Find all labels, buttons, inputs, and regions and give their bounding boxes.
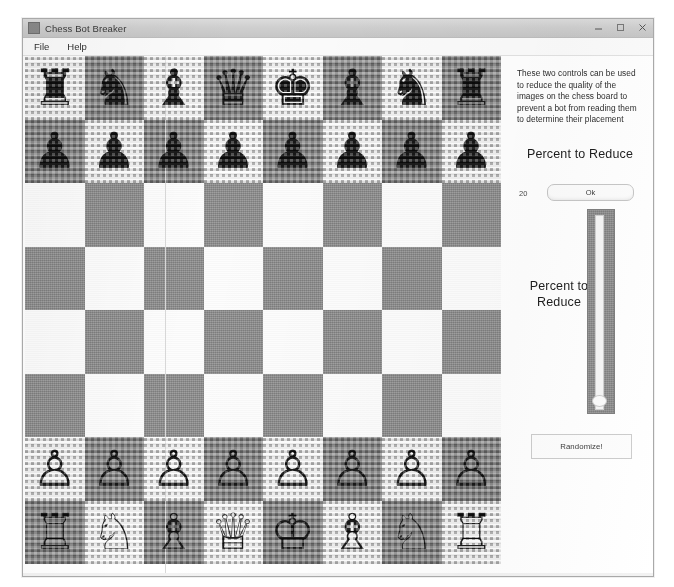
board-square[interactable] [85, 374, 145, 438]
piece-rook-black[interactable]: ♜ [25, 56, 85, 120]
board-square[interactable]: ♙ [323, 437, 383, 501]
piece-pawn-white[interactable]: ♙ [85, 437, 145, 501]
title-bar[interactable]: Chess Bot Breaker [23, 19, 653, 38]
board-square[interactable]: ♗ [323, 501, 383, 565]
board-square[interactable]: ♟ [442, 120, 502, 184]
board-square[interactable] [382, 310, 442, 374]
ok-button[interactable]: Ok [547, 184, 634, 201]
piece-rook-black[interactable]: ♜ [442, 56, 502, 120]
board-square[interactable] [263, 183, 323, 247]
board-square[interactable]: ♙ [442, 437, 502, 501]
piece-pawn-white[interactable]: ♙ [323, 437, 383, 501]
piece-king-white[interactable]: ♔ [263, 501, 323, 565]
board-square[interactable] [85, 247, 145, 311]
board-square[interactable]: ♙ [144, 437, 204, 501]
piece-knight-white[interactable]: ♘ [382, 501, 442, 565]
maximize-icon[interactable] [614, 21, 627, 34]
board-square[interactable] [323, 247, 383, 311]
piece-pawn-black[interactable]: ♟ [144, 120, 204, 184]
menu-file[interactable]: File [31, 40, 58, 53]
piece-pawn-white[interactable]: ♙ [382, 437, 442, 501]
piece-pawn-white[interactable]: ♙ [263, 437, 323, 501]
board-square[interactable] [25, 310, 85, 374]
board-square[interactable]: ♖ [442, 501, 502, 565]
board-square[interactable]: ♟ [144, 120, 204, 184]
board-square[interactable]: ♟ [25, 120, 85, 184]
board-square[interactable] [382, 183, 442, 247]
board-square[interactable]: ♙ [85, 437, 145, 501]
piece-pawn-black[interactable]: ♟ [323, 120, 383, 184]
board-square[interactable]: ♙ [263, 437, 323, 501]
piece-pawn-black[interactable]: ♟ [263, 120, 323, 184]
board-square[interactable]: ♙ [25, 437, 85, 501]
board-square[interactable] [25, 247, 85, 311]
board-square[interactable] [144, 310, 204, 374]
board-square[interactable] [204, 183, 264, 247]
board-square[interactable] [144, 183, 204, 247]
board-square[interactable]: ♔ [263, 501, 323, 565]
piece-bishop-black[interactable]: ♝ [144, 56, 204, 120]
board-square[interactable]: ♘ [85, 501, 145, 565]
minimize-icon[interactable] [592, 21, 605, 34]
board-square[interactable] [442, 183, 502, 247]
board-square[interactable]: ♕ [204, 501, 264, 565]
piece-bishop-white[interactable]: ♗ [323, 501, 383, 565]
board-square[interactable]: ♞ [382, 56, 442, 120]
board-square[interactable]: ♜ [442, 56, 502, 120]
board-square[interactable] [25, 374, 85, 438]
menu-help[interactable]: Help [64, 40, 96, 53]
piece-rook-white[interactable]: ♖ [442, 501, 502, 565]
board-square[interactable] [323, 374, 383, 438]
slider-thumb[interactable] [592, 395, 607, 407]
piece-king-black[interactable]: ♚ [263, 56, 323, 120]
board-square[interactable]: ♘ [382, 501, 442, 565]
board-square[interactable] [85, 183, 145, 247]
piece-pawn-white[interactable]: ♙ [204, 437, 264, 501]
piece-rook-white[interactable]: ♖ [25, 501, 85, 565]
board-square[interactable] [442, 310, 502, 374]
board-square[interactable]: ♛ [204, 56, 264, 120]
board-square[interactable]: ♟ [204, 120, 264, 184]
board-square[interactable] [85, 310, 145, 374]
board-square[interactable]: ♙ [382, 437, 442, 501]
piece-queen-white[interactable]: ♕ [204, 501, 264, 565]
piece-knight-black[interactable]: ♞ [382, 56, 442, 120]
board-square[interactable]: ♟ [323, 120, 383, 184]
piece-pawn-white[interactable]: ♙ [442, 437, 502, 501]
board-square[interactable]: ♟ [382, 120, 442, 184]
board-square[interactable] [204, 374, 264, 438]
piece-knight-white[interactable]: ♘ [85, 501, 145, 565]
board-square[interactable]: ♜ [25, 56, 85, 120]
close-icon[interactable] [636, 21, 649, 34]
board-square[interactable]: ♟ [263, 120, 323, 184]
piece-bishop-black[interactable]: ♝ [323, 56, 383, 120]
piece-pawn-white[interactable]: ♙ [144, 437, 204, 501]
board-square[interactable] [263, 374, 323, 438]
board-square[interactable] [144, 374, 204, 438]
piece-queen-black[interactable]: ♛ [204, 56, 264, 120]
board-square[interactable] [323, 310, 383, 374]
piece-pawn-white[interactable]: ♙ [25, 437, 85, 501]
piece-knight-black[interactable]: ♞ [85, 56, 145, 120]
piece-pawn-black[interactable]: ♟ [204, 120, 264, 184]
chess-board[interactable]: ♜♞♝♛♚♝♞♜♟♟♟♟♟♟♟♟♙♙♙♙♙♙♙♙♖♘♗♕♔♗♘♖ [25, 56, 501, 564]
board-square[interactable] [204, 247, 264, 311]
board-square[interactable]: ♖ [25, 501, 85, 565]
piece-pawn-black[interactable]: ♟ [442, 120, 502, 184]
board-square[interactable] [323, 183, 383, 247]
board-square[interactable] [382, 247, 442, 311]
slider-track[interactable] [595, 215, 604, 410]
piece-pawn-black[interactable]: ♟ [25, 120, 85, 184]
board-square[interactable] [442, 247, 502, 311]
board-square[interactable]: ♙ [204, 437, 264, 501]
board-square[interactable] [263, 247, 323, 311]
board-square[interactable]: ♝ [144, 56, 204, 120]
piece-bishop-white[interactable]: ♗ [144, 501, 204, 565]
piece-pawn-black[interactable]: ♟ [85, 120, 145, 184]
board-square[interactable] [204, 310, 264, 374]
board-square[interactable]: ♞ [85, 56, 145, 120]
randomize-button[interactable]: Randomize! [531, 434, 632, 459]
board-square[interactable] [263, 310, 323, 374]
board-square[interactable]: ♚ [263, 56, 323, 120]
piece-pawn-black[interactable]: ♟ [382, 120, 442, 184]
